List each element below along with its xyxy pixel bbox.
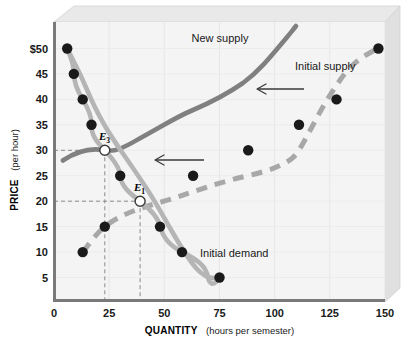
data-point (115, 171, 125, 181)
y-tick-label: 5 (42, 272, 48, 284)
y-tick-label: $50 (30, 43, 48, 55)
data-point (155, 221, 165, 231)
box-right-face (385, 6, 400, 302)
equilibrium-point-e1 (135, 196, 145, 206)
x-tick-label: 25 (103, 307, 115, 319)
x-tick-label: 50 (158, 307, 170, 319)
data-point (331, 94, 341, 104)
data-point (294, 120, 304, 130)
x-tick-label: 100 (266, 307, 284, 319)
x-axis-title: QUANTITY (hours per semester) (145, 320, 294, 337)
data-point (78, 247, 88, 257)
y-tick-label: 45 (36, 68, 48, 80)
data-point (243, 145, 253, 155)
data-point (86, 120, 96, 130)
initial-demand-label: Initial demand (200, 247, 269, 259)
initial-supply-label: Initial supply (295, 60, 356, 72)
x-tick-label: 125 (321, 307, 339, 319)
data-point (62, 43, 72, 53)
x-tick-label: 150 (376, 307, 394, 319)
equilibrium-point-e3 (100, 145, 110, 155)
x-tick-label: 0 (51, 307, 57, 319)
y-tick-label: 10 (36, 246, 48, 258)
data-point (177, 247, 187, 257)
data-point (78, 94, 88, 104)
supply-demand-chart-figure: E3 E1 New supply Initial supply Initial … (0, 0, 411, 344)
y-tick-label: 40 (36, 93, 48, 105)
data-point (100, 221, 110, 231)
box-top-face (54, 6, 400, 22)
data-point (69, 69, 79, 79)
data-point (188, 171, 198, 181)
x-axis-tick-labels: 0 25 50 75 100 125 150 (51, 307, 394, 319)
x-tick-label: 75 (213, 307, 225, 319)
y-axis-title: PRICE (per hour) (4, 129, 21, 211)
y-tick-label: 20 (36, 195, 48, 207)
data-point (214, 272, 224, 282)
y-tick-label: 15 (36, 221, 48, 233)
y-tick-label: 35 (36, 119, 48, 131)
chart-svg: E3 E1 New supply Initial supply Initial … (0, 0, 411, 344)
new-supply-label: New supply (192, 32, 249, 44)
y-tick-label: 25 (36, 170, 48, 182)
y-tick-label: 30 (36, 144, 48, 156)
y-axis-tick-labels: $50 45 40 35 30 25 20 15 10 5 (30, 43, 48, 284)
data-point (373, 43, 383, 53)
